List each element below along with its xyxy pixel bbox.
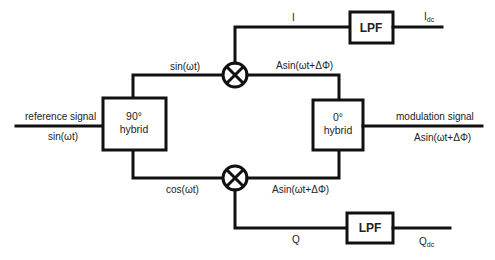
lpf-top-block: LPF [350, 12, 393, 43]
hybrid-0-block: 0° hybrid [313, 100, 363, 150]
rf-bottom-wire [247, 150, 339, 178]
cos-lo-label: cos(ωt) [166, 184, 199, 195]
iq-demodulator-diagram: reference signal sin(ωt) sin(ωt) cos(ωt)… [0, 0, 495, 260]
lpf-top-label: LPF [360, 21, 383, 35]
hybrid-0-sublabel: hybrid [324, 124, 353, 136]
modulation-signal-label: modulation signal [396, 111, 474, 122]
lpf-bottom-block: LPF [347, 213, 393, 243]
i-branch-label: I [292, 12, 295, 23]
top-mixer [223, 63, 247, 87]
i-branch-wire [235, 27, 350, 63]
q-branch-wire [235, 190, 347, 228]
reference-signal-label: reference signal [25, 111, 96, 122]
q-dc-label: Qdc [419, 236, 435, 248]
hybrid-90-sublabel: hybrid [120, 123, 149, 135]
i-dc-label: Idc [424, 11, 435, 23]
bottom-mixer [223, 166, 247, 190]
reference-signal-expr: sin(ωt) [48, 131, 78, 142]
hybrid-90-label: 90° [126, 110, 142, 122]
cos-lo-wire [133, 150, 223, 178]
rf-bottom-label: Asin(ωt+ΔΦ) [272, 184, 329, 195]
sin-lo-wire [133, 75, 223, 98]
modulation-signal-expr: Asin(ωt+ΔΦ) [414, 132, 471, 143]
rf-top-wire [247, 75, 339, 100]
lpf-bottom-label: LPF [359, 221, 382, 235]
hybrid-0-label: 0° [333, 111, 343, 123]
sin-lo-label: sin(ωt) [170, 61, 200, 72]
q-branch-label: Q [292, 234, 300, 245]
hybrid-90-block: 90° hybrid [103, 98, 166, 150]
rf-top-label: Asin(ωt+ΔΦ) [276, 60, 333, 71]
